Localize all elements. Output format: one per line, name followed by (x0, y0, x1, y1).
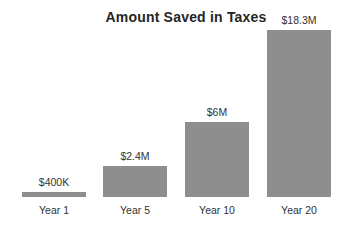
bar-group-year-1: $400K (22, 176, 86, 197)
bar-group-year-10: $6M (185, 106, 249, 197)
bar-year-1 (22, 192, 86, 197)
value-label-year-5: $2.4M (120, 150, 149, 162)
x-axis-label-year-10: Year 10 (185, 204, 249, 216)
value-label-year-20: $18.3M (281, 14, 316, 26)
value-label-year-10: $6M (207, 106, 227, 118)
bar-group-year-5: $2.4M (103, 150, 167, 197)
x-axis-label-year-1: Year 1 (22, 204, 86, 216)
bar-year-20 (267, 30, 331, 197)
value-label-year-1: $400K (39, 176, 69, 188)
x-axis-label-year-20: Year 20 (267, 204, 331, 216)
bar-year-10 (185, 122, 249, 197)
x-axis-label-year-5: Year 5 (103, 204, 167, 216)
bar-chart: Amount Saved in Taxes $400K $2.4M $6M $1… (0, 0, 339, 233)
bar-group-year-20: $18.3M (267, 14, 331, 197)
chart-title: Amount Saved in Taxes (105, 9, 266, 25)
bar-year-5 (103, 166, 167, 197)
